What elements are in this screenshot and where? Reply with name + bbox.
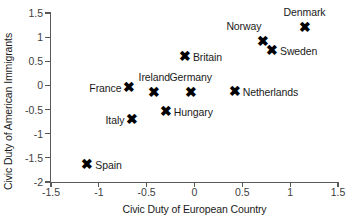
x-tick-label: -1.5 <box>31 187 71 198</box>
data-point-label: Germany <box>169 72 211 83</box>
x-axis-title: Civic Duty of European Country <box>51 203 338 215</box>
x-marker-icon: ✖ <box>178 48 191 65</box>
x-marker-icon: ✖ <box>298 19 311 36</box>
y-tick-label: 0.5 <box>3 56 43 67</box>
y-tick-label: -0.5 <box>3 105 43 116</box>
y-tick-mark <box>45 157 50 158</box>
x-marker-icon: ✖ <box>123 79 136 96</box>
x-marker-icon: ✖ <box>228 83 241 100</box>
y-tick-label: -2 <box>3 177 43 188</box>
x-marker-icon: ✖ <box>265 42 278 59</box>
y-tick-label: 1.5 <box>3 8 43 19</box>
x-marker-icon: ✖ <box>159 103 172 120</box>
y-tick-mark <box>45 61 50 62</box>
x-tick-label: 1.5 <box>318 187 350 198</box>
data-point-label: France <box>89 83 121 94</box>
y-tick-mark <box>45 12 50 13</box>
x-tick-label: -0.5 <box>127 187 167 198</box>
data-point-label: Sweden <box>280 46 317 57</box>
x-tick-label: 1 <box>270 187 310 198</box>
y-tick-mark <box>45 37 50 38</box>
y-tick-mark <box>45 109 50 110</box>
y-tick-label: 0 <box>3 80 43 91</box>
data-point-label: Britain <box>193 52 222 63</box>
y-tick-label: 1 <box>3 32 43 43</box>
data-point-label: Italy <box>106 115 125 126</box>
data-point-label: Netherlands <box>243 87 299 98</box>
y-tick-mark <box>45 133 50 134</box>
data-point-label: Norway <box>226 21 261 32</box>
x-marker-icon: ✖ <box>81 156 94 173</box>
x-tick-label: -1 <box>79 187 119 198</box>
y-tick-label: -1 <box>3 129 43 140</box>
x-marker-icon: ✖ <box>126 111 139 128</box>
y-tick-mark <box>45 181 50 182</box>
data-point-label: Hungary <box>174 107 213 118</box>
x-tick-label: 0.5 <box>222 187 262 198</box>
x-marker-icon: ✖ <box>148 84 161 101</box>
data-point-label: Ireland <box>139 72 170 83</box>
data-point-label: Spain <box>95 160 121 171</box>
x-tick-label: 0 <box>175 187 215 198</box>
y-tick-label: -1.5 <box>3 153 43 164</box>
scatter-chart: Civic Duty of American Immigrants Civic … <box>0 0 350 223</box>
data-point-label: Denmark <box>284 7 326 18</box>
y-tick-mark <box>45 85 50 86</box>
x-marker-icon: ✖ <box>184 84 197 101</box>
